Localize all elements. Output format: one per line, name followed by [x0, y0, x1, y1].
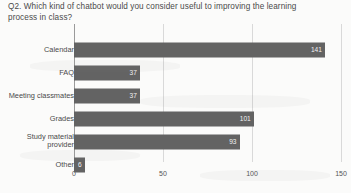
bar-study-material-provider[interactable]: 93 — [74, 134, 240, 149]
bar-calendar[interactable]: 141 — [74, 42, 325, 57]
bar-row: Other6 — [0, 153, 351, 176]
category-label-faq: FAQ — [0, 68, 74, 77]
bar-row: Study material provider93 — [0, 130, 351, 153]
bar-value-label: 101 — [240, 115, 251, 122]
bar-row: FAQ37 — [0, 61, 351, 84]
bar-chart-plot-area: 050100150 Calendar141FAQ37Meeting classm… — [0, 24, 351, 193]
bar-faq[interactable]: 37 — [74, 65, 140, 80]
bar-value-label: 141 — [311, 46, 322, 53]
bar-value-label: 37 — [130, 69, 137, 76]
bar-row: Grades101 — [0, 107, 351, 130]
page-title: Q2. Which kind of chatbot would you cons… — [8, 2, 344, 23]
chart-page: Q2. Which kind of chatbot would you cons… — [0, 0, 351, 193]
bar-value-label: 37 — [130, 92, 137, 99]
category-label-other: Other — [0, 160, 74, 169]
bar-row: Calendar141 — [0, 38, 351, 61]
bar-row: Meeting classmates37 — [0, 84, 351, 107]
category-label-meeting-classmates: Meeting classmates — [0, 91, 74, 100]
category-label-grades: Grades — [0, 114, 74, 123]
bar-value-label: 6 — [78, 161, 82, 168]
bar-meeting-classmates[interactable]: 37 — [74, 88, 140, 103]
bar-other[interactable]: 6 — [74, 157, 85, 172]
bar-grades[interactable]: 101 — [74, 111, 254, 126]
category-label-study-material-provider: Study material provider — [0, 133, 74, 150]
category-label-calendar: Calendar — [0, 45, 74, 54]
bar-value-label: 93 — [229, 138, 236, 145]
